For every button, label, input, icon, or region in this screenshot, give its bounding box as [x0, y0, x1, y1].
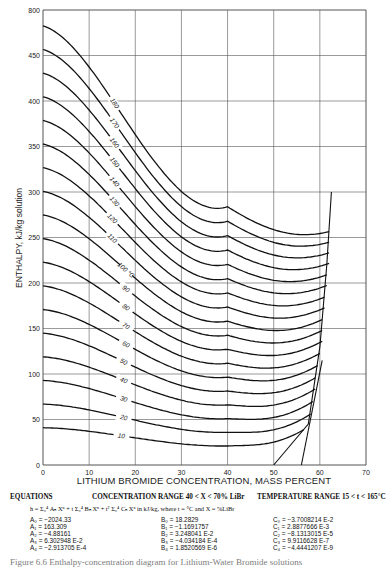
y-tick-label: 100: [28, 371, 40, 378]
isotherm-label: 100 °C: [116, 261, 136, 280]
y-axis-label: ENTHALPY, kJ/kg solution: [14, 188, 24, 288]
isotherm-80: [43, 262, 322, 355]
y-tick-label: 50: [32, 416, 40, 423]
coef-a4: A₄ = −2.913705 E-4: [30, 544, 86, 551]
y-tick-label: 300: [28, 189, 40, 196]
isotherm-110: [43, 191, 325, 318]
isotherm-50: [43, 333, 315, 393]
isotherm-130: [43, 144, 327, 294]
isotherm-curves: [43, 26, 329, 446]
y-tick-label: 150: [28, 325, 40, 332]
coef-c2: C₂ = −8.1313015 E-5: [273, 530, 333, 537]
coef-b3: B₃ = −4.034184 E-4: [161, 537, 217, 544]
y-tick-label: 0: [36, 462, 40, 469]
coef-a2: A₂ = −4.88161: [30, 530, 86, 537]
figure-caption: Figure 6.6 Enthalpy-concentration diagra…: [10, 557, 302, 567]
isotherm-150: [43, 97, 329, 270]
coef-b2: B₂ = 3.248041 E-2: [161, 530, 217, 537]
isotherm-90: [43, 239, 322, 343]
y-tick-label: 450: [28, 52, 40, 59]
concentration-range: CONCENTRATION RANGE 40 < X < 70% LiBr: [92, 493, 244, 501]
y-tick-label: 400: [28, 98, 40, 105]
isotherm-120: [43, 168, 325, 306]
coef-c3: C₃ = 9.9116628 E-7: [273, 537, 333, 544]
crystallization-line-2: [301, 360, 322, 465]
isotherm-40: [43, 357, 315, 407]
isotherm-10: [43, 428, 304, 446]
coef-c0: C₀ = −3.7008214 E-2: [273, 516, 333, 523]
enthalpy-concentration-chart: 102030405060708090100 °C1101201301401501…: [0, 0, 392, 490]
isotherm-label: 10: [117, 431, 126, 439]
x-tick-label: 0: [41, 469, 45, 476]
y-tick-label: 800: [28, 7, 40, 14]
x-axis-label: LITHIUM BROMIDE CONCENTRATION, MASS PERC…: [77, 475, 331, 486]
coef-a3: A₃ = 6.302948 E-2: [30, 537, 86, 544]
coefficients-a: A₀ = −2024.33 A₁ = 163.309 A₂ = −4.88161…: [30, 516, 86, 551]
coef-c1: C₁ = 2.8877666 E-3: [273, 523, 333, 530]
coefficients-b: B₀ = 18.2829 B₁ = −1.1691757 B₂ = 3.2480…: [161, 516, 217, 551]
isotherm-180: [43, 26, 329, 235]
x-tick-label: 70: [362, 469, 370, 476]
temperature-range: TEMPERATURE RANGE 15 < t < 165°C: [257, 493, 386, 501]
isotherm-60: [43, 310, 318, 381]
y-tick-label: 250: [28, 234, 40, 241]
isotherm-100: [43, 215, 322, 331]
isotherm-170: [43, 50, 329, 247]
enthalpy-formula: h = Σ₀⁴ Aₙ Xⁿ + t Σ₀⁴ Bₙ Xⁿ + t² Σ₀⁴ Cₙ …: [30, 505, 392, 513]
coef-a0: A₀ = −2024.33: [30, 516, 86, 523]
coefficients-c: C₀ = −3.7008214 E-2 C₁ = 2.8877666 E-3 C…: [273, 516, 333, 551]
coef-b0: B₀ = 18.2829: [161, 516, 217, 523]
y-tick-label: 200: [28, 280, 40, 287]
coef-b4: B₄ = 1.8520569 E-6: [161, 544, 217, 551]
y-tick-label: 350: [28, 143, 40, 150]
equations-heading: EQUATIONS: [10, 493, 53, 501]
coef-a1: A₁ = 163.309: [30, 523, 86, 530]
coef-b1: B₁ = −1.1691757: [161, 523, 217, 530]
coef-c4: C₄ = −4.4441207 E-9: [273, 544, 333, 551]
grid: [43, 10, 366, 465]
